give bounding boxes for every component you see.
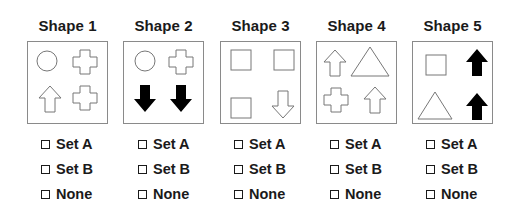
option-set-b[interactable]: Set B	[426, 161, 478, 177]
option-label: None	[56, 186, 92, 202]
shape-title: Shape 5	[404, 17, 501, 34]
checkbox-icon[interactable]	[330, 190, 339, 199]
square-icon	[274, 50, 294, 70]
option-label: Set B	[249, 161, 286, 177]
square-icon	[231, 50, 251, 70]
option-label: Set A	[249, 136, 286, 152]
option-label: Set B	[153, 161, 190, 177]
option-set-a[interactable]: Set A	[426, 136, 478, 152]
option-set-b[interactable]: Set B	[330, 161, 382, 177]
down-arrow-filled-icon	[170, 85, 192, 112]
checkbox-icon[interactable]	[138, 190, 147, 199]
option-label: Set A	[441, 136, 478, 152]
option-set-a[interactable]: Set A	[330, 136, 382, 152]
option-set-b[interactable]: Set B	[41, 161, 93, 177]
down-arrow-filled-icon	[134, 85, 156, 112]
shape-title: Shape 2	[115, 17, 212, 34]
down-arrow-icon	[272, 91, 294, 118]
option-none[interactable]: None	[426, 186, 477, 202]
shape-title: Shape 4	[308, 17, 405, 34]
checkbox-icon[interactable]	[234, 140, 243, 149]
checkbox-icon[interactable]	[426, 165, 435, 174]
option-label: Set B	[56, 161, 93, 177]
checkbox-icon[interactable]	[234, 165, 243, 174]
option-label: Set B	[441, 161, 478, 177]
triangle-icon	[418, 92, 452, 119]
shape-title: Shape 3	[212, 17, 309, 34]
cross-icon	[73, 50, 97, 74]
cross-icon	[324, 88, 348, 112]
checkbox-icon[interactable]	[41, 190, 50, 199]
option-set-b[interactable]: Set B	[234, 161, 286, 177]
option-label: None	[153, 186, 189, 202]
option-label: Set A	[345, 136, 382, 152]
option-none[interactable]: None	[234, 186, 285, 202]
shape-box	[27, 41, 108, 124]
option-label: None	[441, 186, 477, 202]
option-label: Set A	[153, 136, 190, 152]
checkbox-icon[interactable]	[330, 165, 339, 174]
option-set-a[interactable]: Set A	[138, 136, 190, 152]
triangle-icon	[351, 47, 389, 76]
circle-icon	[37, 51, 57, 71]
option-label: None	[345, 186, 381, 202]
up-arrow-icon	[324, 50, 346, 76]
up-arrow-icon	[364, 87, 386, 113]
cross-icon	[73, 86, 97, 110]
option-none[interactable]: None	[330, 186, 381, 202]
option-set-b[interactable]: Set B	[138, 161, 190, 177]
option-label: Set A	[56, 136, 93, 152]
up-arrow-filled-icon	[466, 49, 488, 76]
shape-title: Shape 1	[19, 17, 116, 34]
up-arrow-icon	[39, 86, 61, 112]
checkbox-icon[interactable]	[426, 140, 435, 149]
shape-box	[220, 41, 301, 124]
checkbox-icon[interactable]	[234, 190, 243, 199]
option-label: Set B	[345, 161, 382, 177]
square-icon	[426, 55, 446, 75]
checkbox-icon[interactable]	[41, 165, 50, 174]
up-arrow-filled-icon	[466, 93, 488, 120]
option-set-a[interactable]: Set A	[234, 136, 286, 152]
option-set-a[interactable]: Set A	[41, 136, 93, 152]
circle-icon	[135, 51, 155, 71]
checkbox-icon[interactable]	[138, 140, 147, 149]
square-icon	[231, 98, 251, 118]
option-label: None	[249, 186, 285, 202]
shape-box	[316, 41, 397, 124]
checkbox-icon[interactable]	[138, 165, 147, 174]
checkbox-icon[interactable]	[41, 140, 50, 149]
option-none[interactable]: None	[138, 186, 189, 202]
shape-box	[412, 41, 493, 124]
cross-icon	[169, 50, 193, 74]
shape-box	[123, 41, 204, 124]
option-none[interactable]: None	[41, 186, 92, 202]
checkbox-icon[interactable]	[330, 140, 339, 149]
checkbox-icon[interactable]	[426, 190, 435, 199]
